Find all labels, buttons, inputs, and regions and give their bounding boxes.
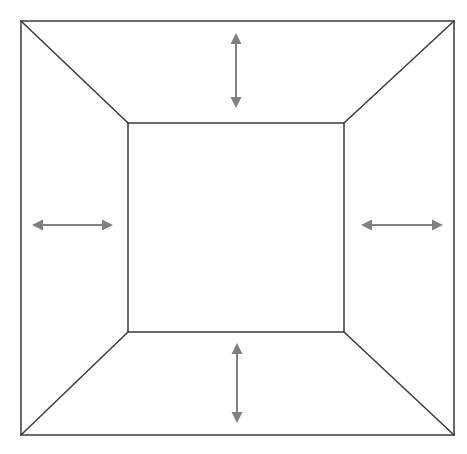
perspective-frame-diagram — [0, 0, 467, 454]
diagram-canvas — [0, 0, 467, 454]
